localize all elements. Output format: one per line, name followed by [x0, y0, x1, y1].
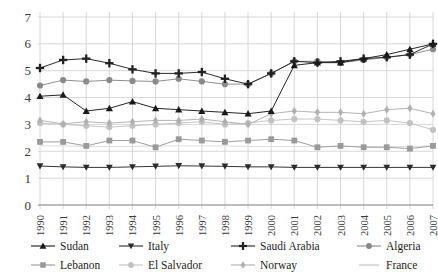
- data-point-marker: [430, 110, 435, 118]
- legend-marker-el-salvador: [118, 259, 144, 271]
- legend-marker-algeria: [356, 240, 382, 252]
- data-point-marker: [60, 139, 66, 145]
- x-axis-tick-label: 2004: [359, 214, 370, 236]
- y-axis-tick-label: 7: [25, 10, 32, 25]
- x-axis-tick-label: 1994: [127, 214, 138, 236]
- legend-label-sudan: Sudan: [60, 240, 89, 252]
- x-axis-tick-label: 1993: [104, 215, 115, 236]
- data-point-marker: [37, 82, 43, 88]
- data-point-marker: [37, 139, 43, 145]
- y-axis-tick-label: 2: [25, 144, 32, 159]
- series-line: [40, 166, 433, 168]
- y-axis-tick-label: 0: [25, 198, 32, 213]
- data-point-marker: [106, 77, 112, 83]
- data-point-marker: [60, 91, 67, 97]
- data-point-marker: [198, 68, 206, 76]
- legend-item-sudan[interactable]: Sudan: [30, 240, 118, 252]
- series-line: [40, 44, 433, 114]
- series-line: [40, 108, 433, 124]
- legend-item-norway[interactable]: Norway: [230, 259, 356, 271]
- chart-legend: Sudan Italy Saudi Arabia Algeria Lebanon: [0, 236, 438, 279]
- legend-marker-lebanon: [30, 259, 56, 271]
- x-axis-tick-label: 1995: [151, 215, 162, 236]
- data-point-marker: [268, 107, 275, 113]
- data-point-marker: [106, 138, 112, 144]
- legend-label-saudi-arabia: Saudi Arabia: [260, 240, 320, 252]
- data-point-marker: [221, 75, 229, 83]
- data-point-marker: [152, 78, 158, 84]
- legend-item-algeria[interactable]: Algeria: [356, 240, 420, 252]
- legend-label-france: France: [386, 259, 417, 271]
- data-point-marker: [291, 116, 297, 122]
- data-point-marker: [176, 136, 182, 142]
- data-point-marker: [407, 120, 413, 126]
- data-point-marker: [199, 138, 205, 144]
- data-point-marker: [40, 262, 46, 268]
- x-axis-tick-label: 2001: [289, 215, 300, 236]
- data-point-marker: [407, 146, 413, 152]
- legend-item-lebanon[interactable]: Lebanon: [30, 259, 118, 271]
- data-point-marker: [384, 106, 389, 114]
- data-point-marker: [430, 143, 436, 149]
- data-point-marker: [407, 104, 412, 112]
- data-point-marker: [315, 108, 320, 116]
- data-point-marker: [268, 136, 274, 142]
- y-axis-tick-label: 4: [25, 90, 32, 105]
- series-lebanon: [37, 136, 436, 151]
- legend-marker-italy: [118, 240, 144, 252]
- data-point-marker: [129, 78, 135, 84]
- plot-area: 0123456719901991199219931994199519961997…: [0, 0, 438, 240]
- data-point-marker: [291, 138, 297, 144]
- x-axis-tick-label: 2007: [428, 215, 438, 236]
- data-point-marker: [105, 59, 113, 67]
- data-point-marker: [338, 143, 344, 149]
- data-point-marker: [338, 108, 343, 116]
- data-point-marker: [59, 56, 67, 64]
- x-axis-tick-label: 2006: [405, 215, 416, 236]
- x-axis-tick-label: 1990: [35, 215, 46, 236]
- data-point-marker: [128, 65, 136, 73]
- legend-label-algeria: Algeria: [386, 240, 420, 252]
- x-axis-tick-label: 1998: [220, 215, 231, 236]
- x-axis-tick-label: 2000: [266, 215, 277, 236]
- legend-item-italy[interactable]: Italy: [118, 240, 230, 252]
- legend-item-el-salvador[interactable]: El Salvador: [118, 259, 230, 271]
- data-point-marker: [245, 138, 251, 144]
- y-axis-tick-label: 5: [25, 63, 32, 78]
- y-axis-tick-label: 3: [25, 117, 32, 132]
- series-line: [40, 49, 433, 85]
- series-line: [40, 146, 433, 147]
- data-point-marker: [430, 127, 436, 133]
- legend-marker-france: [356, 259, 382, 271]
- y-axis-tick-label: 6: [25, 36, 32, 51]
- data-point-marker: [82, 54, 90, 62]
- series-algeria: [37, 46, 436, 88]
- legend-marker-saudi-arabia: [230, 240, 256, 252]
- legend-item-france[interactable]: France: [356, 259, 417, 271]
- legend-item-saudi-arabia[interactable]: Saudi Arabia: [230, 240, 356, 252]
- data-point-marker: [129, 98, 136, 104]
- data-point-marker: [241, 261, 246, 269]
- chart-container: 0123456719901991199219931994199519961997…: [0, 0, 438, 279]
- series-france: [40, 146, 433, 147]
- data-point-marker: [384, 117, 390, 123]
- legend-marker-norway: [230, 259, 256, 271]
- x-axis-tick-label: 1999: [243, 215, 254, 236]
- legend-row-2: Lebanon El Salvador Norway France: [0, 255, 438, 274]
- legend-label-norway: Norway: [260, 259, 297, 271]
- legend-row-1: Sudan Italy Saudi Arabia Algeria: [0, 236, 438, 255]
- data-point-marker: [222, 139, 228, 145]
- data-point-marker: [315, 144, 321, 150]
- x-axis-tick-label: 2002: [312, 215, 323, 236]
- data-point-marker: [366, 243, 372, 249]
- data-point-marker: [83, 78, 89, 84]
- data-point-marker: [60, 77, 66, 83]
- data-point-marker: [128, 262, 134, 268]
- data-point-marker: [130, 138, 136, 144]
- data-point-marker: [239, 242, 247, 250]
- x-axis-tick-label: 1992: [81, 215, 92, 236]
- x-axis-tick-label: 1997: [197, 215, 208, 236]
- data-point-marker: [83, 143, 89, 149]
- data-point-marker: [361, 144, 367, 150]
- legend-marker-sudan: [30, 240, 56, 252]
